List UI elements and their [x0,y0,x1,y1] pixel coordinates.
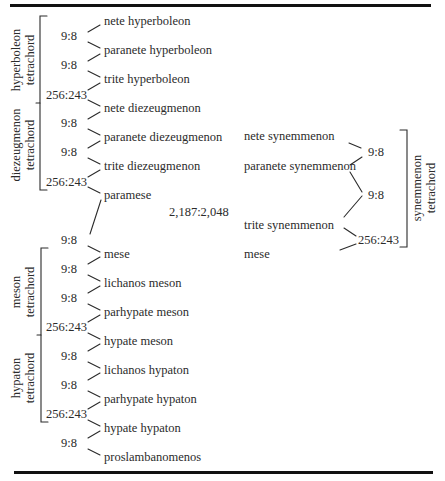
note-trite-hyperboleon: trite hyperboleon [104,73,190,86]
tetrachord-label-meson: meson tetrachord [9,257,37,327]
tetrachord-name: diezeugmenon [9,105,23,185]
tetrachord-word: tetrachord [23,343,37,413]
tetrachord-label-diezeugmenon: diezeugmenon tetrachord [9,105,37,185]
interval-ratio: 256:243 [46,176,87,189]
note-paranete-hyperboleon: paranete hyperboleon [104,44,212,57]
tetrachord-label-synemmenon: synemmenon tetrachord [410,150,438,226]
note-lichanos-hypaton: lichanos hypaton [104,364,189,377]
tetrachord-word: tetrachord [23,105,37,185]
note-proslambanomenos: proslambanomenos [104,451,201,464]
note-nete-hyperboleon: nete hyperboleon [104,15,190,28]
note-paranete-synemmenon: paranete synemmenon [244,160,356,173]
interval-ratio: 9:8 [61,379,77,392]
tetrachord-word: tetrachord [23,25,37,95]
interval-ratio: 256:243 [46,321,87,334]
tetrachord-name: hyperboleon [9,25,23,95]
interval-ratio: 9:8 [61,146,77,159]
interval-ratio: 256:243 [46,89,87,102]
note-hypate-hypaton: hypate hypaton [104,422,181,435]
interval-ratio: 9:8 [61,437,77,450]
interval-ratio: 256:243 [358,234,399,247]
note-mese: mese [104,248,130,261]
disjunction-ratio: 2,187:2,048 [169,206,229,219]
tetrachord-label-hyperboleon: hyperboleon tetrachord [9,25,37,95]
tetrachord-word: tetrachord [23,257,37,327]
note-mese-synemmenon: mese [244,248,270,261]
tetrachord-word: tetrachord [424,150,438,226]
note-paramese: paramese [104,189,151,202]
synemmenon-bracket [400,130,407,247]
interval-ratio: 9:8 [61,59,77,72]
interval-ratio: 256:243 [46,408,87,421]
tetrachord-label-hypaton: hypaton tetrachord [9,343,37,413]
interval-ratio: 9:8 [368,146,384,159]
tetrachord-name: meson [9,257,23,327]
note-trite-diezeugmenon: trite diezeugmenon [104,160,200,173]
tetrachord-name: synemmenon [410,150,424,226]
note-lichanos-meson: lichanos meson [104,277,181,290]
interval-ratio: 9:8 [61,263,77,276]
interval-ratio: 9:8 [61,117,77,130]
interval-ratio: 9:8 [61,350,77,363]
note-nete-diezeugmenon: nete diezeugmenon [104,102,201,115]
note-paranete-diezeugmenon: paranete diezeugmenon [104,131,222,144]
interval-ratio: 9:8 [61,30,77,43]
interval-ratio: 9:8 [61,234,77,247]
interval-ratio: 9:8 [61,292,77,305]
tetrachord-name: hypaton [9,343,23,413]
note-nete-synemmenon: nete synemmenon [244,130,335,143]
note-parhypate-hypaton: parhypate hypaton [104,393,197,406]
interval-ratio: 9:8 [368,189,384,202]
note-hypate-meson: hypate meson [104,335,173,348]
note-parhypate-meson: parhypate meson [104,306,189,319]
note-trite-synemmenon: trite synemmenon [244,219,334,232]
